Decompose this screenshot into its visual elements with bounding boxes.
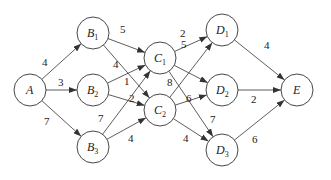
arrow-icon (234, 100, 284, 140)
node-label: A (25, 83, 34, 97)
edge-b2-c2: 2 (108, 92, 144, 105)
node-b3: B3 (77, 131, 109, 163)
edge-weight: 5 (120, 23, 126, 35)
edge-d3-e: 6 (234, 100, 284, 145)
edge-weight: 3 (58, 76, 64, 88)
arrow-icon (108, 95, 144, 106)
arrow-icon (42, 44, 81, 80)
edge-weight: 2 (251, 93, 257, 105)
node-c1: C1 (144, 42, 176, 74)
edge-weight: 8 (167, 76, 173, 88)
node-c2: C2 (144, 94, 176, 126)
node-b1: B1 (77, 17, 109, 49)
edge-d2-e: 2 (238, 90, 281, 105)
edge-b3-c2: 4 (107, 118, 146, 144)
edge-a-b3: 7 (42, 101, 81, 137)
edge-weight: 4 (183, 132, 189, 144)
arrow-icon (169, 71, 213, 136)
node-label: E (292, 83, 301, 97)
network-graph: 437541274257864426 AB1B2B3C1C2D1D2D3E (0, 0, 331, 180)
arrow-icon (174, 65, 208, 82)
node-d1: D1 (206, 14, 238, 46)
node-d3: D3 (206, 134, 238, 166)
edge-c1-d1: 2 (175, 27, 208, 51)
node-b2: B2 (77, 74, 109, 106)
node-d2: D2 (206, 74, 238, 106)
arrow-icon (108, 39, 145, 53)
edge-b1-c2: 4 (104, 45, 150, 98)
edge-weight: 7 (98, 112, 104, 124)
edge-weight: 4 (42, 56, 48, 68)
edge-weight: 1 (124, 75, 130, 87)
edge-weight: 7 (210, 113, 216, 125)
arrow-icon (234, 40, 284, 80)
node-a: A (14, 74, 46, 106)
edge-weight: 6 (186, 92, 192, 104)
edge-a-b1: 4 (42, 44, 81, 80)
edge-d1-e: 4 (234, 39, 284, 80)
edge-weight: 4 (128, 132, 134, 144)
edge-weight: 6 (252, 133, 258, 145)
edge-c1-d2: 5 (174, 38, 208, 83)
edge-weight: 5 (181, 38, 187, 50)
node-e: E (281, 74, 313, 106)
edge-c2-d2: 6 (175, 92, 207, 105)
arrow-icon (104, 45, 150, 98)
edge-b1-c1: 5 (108, 23, 145, 52)
edge-weight: 4 (264, 39, 270, 51)
edge-weight: 7 (44, 115, 50, 127)
edge-weight: 4 (113, 58, 119, 70)
edge-a-b2: 3 (46, 76, 77, 90)
